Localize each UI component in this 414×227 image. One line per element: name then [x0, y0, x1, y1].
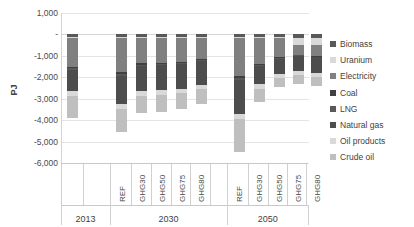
legend-label: LNG	[340, 104, 357, 114]
legend-item-natural-gas[interactable]: Natural gas	[330, 117, 414, 133]
bar-segment-natural-gas	[116, 76, 127, 105]
x-axis-sublabel-ghg30: GHG30	[255, 175, 265, 202]
bar-segment-natural-gas	[254, 66, 265, 84]
legend-swatch-uranium	[330, 57, 336, 63]
bar-segment-crude-oil	[234, 119, 245, 151]
axis-separator	[61, 164, 62, 205]
bar-segment-natural-gas	[196, 61, 207, 85]
bar-segment-natural-gas	[274, 59, 285, 74]
bar-segment-crude-oil	[136, 96, 147, 114]
bar-segment-crude-oil	[156, 95, 167, 112]
x-axis-group-rule	[110, 205, 228, 206]
legend-item-coal[interactable]: Coal	[330, 85, 414, 101]
x-axis-sublabel-ghg50: GHG50	[275, 175, 285, 202]
x-axis-group-rule	[227, 205, 308, 206]
bar-2050-ghg50[interactable]	[274, 34, 285, 87]
bar-segment-electricity	[311, 45, 322, 56]
axis-separator	[83, 164, 84, 205]
x-axis-sublabel-ref: REF	[118, 186, 128, 202]
legend-swatch-biomass	[330, 41, 336, 47]
legend-label: Electricity	[340, 71, 376, 81]
axis-separator	[131, 164, 132, 205]
axis-separator	[151, 164, 152, 205]
stacked-bar-chart: PJ 1,000--1,000-2,000-3,000-4,000-5,000-…	[0, 0, 414, 227]
bar-segment-crude-oil	[196, 89, 207, 104]
bar-segment-natural-gas	[156, 65, 167, 89]
legend-swatch-natural-gas	[330, 122, 336, 128]
legend-label: Crude oil	[340, 152, 374, 162]
y-axis-tick-label: -3,000	[12, 94, 58, 104]
axis-separator	[287, 164, 288, 205]
bar-segment-electricity	[176, 38, 187, 62]
legend-swatch-electricity	[330, 73, 336, 79]
bar-2050-ghg30[interactable]	[254, 34, 265, 102]
x-axis-sublabel-ghg80: GHG80	[313, 175, 323, 202]
y-axis-tick-label: -2,000	[12, 72, 58, 82]
y-axis-tick-label: -1,000	[12, 51, 58, 61]
legend-item-electricity[interactable]: Electricity	[330, 68, 414, 84]
gridline	[62, 120, 309, 121]
bar-2030-ghg50[interactable]	[156, 34, 167, 112]
x-axis-sublabel-ghg75: GHG75	[178, 175, 188, 202]
x-axis-sublabel-ghg80: GHG80	[197, 175, 207, 202]
y-axis-tick-label: -4,000	[12, 115, 58, 125]
bar-2013[interactable]	[67, 34, 78, 118]
bar-segment-uranium	[293, 38, 304, 45]
bar-segment-electricity	[156, 38, 167, 63]
axis-group-separator	[227, 205, 228, 225]
bar-2050-ghg80[interactable]	[311, 34, 322, 86]
legend-label: Natural gas	[340, 120, 383, 130]
bar-segment-natural-gas	[311, 57, 322, 73]
legend-label: Coal	[340, 88, 357, 98]
bar-2030-ghg80[interactable]	[196, 34, 207, 104]
bar-segment-crude-oil	[293, 75, 304, 84]
legend-label: Biomass	[340, 39, 373, 49]
bar-segment-electricity	[234, 38, 245, 76]
plot-area	[61, 13, 309, 163]
y-axis-tick-label: 1,000	[12, 8, 58, 18]
bar-2050-ref[interactable]	[234, 34, 245, 151]
legend-item-lng[interactable]: LNG	[330, 101, 414, 117]
gridline	[62, 13, 309, 14]
legend-label: Oil products	[340, 136, 385, 146]
bar-segment-electricity	[274, 38, 285, 57]
bar-2050-ghg75[interactable]	[293, 34, 304, 83]
bar-2030-ref[interactable]	[116, 34, 127, 131]
x-axis-group-label-2050: 2050	[227, 214, 308, 225]
legend-swatch-lng	[330, 106, 336, 112]
legend-item-oil-products[interactable]: Oil products	[330, 133, 414, 149]
axis-group-separator	[308, 205, 309, 225]
legend-item-biomass[interactable]: Biomass	[330, 36, 414, 52]
bar-2030-ghg75[interactable]	[176, 34, 187, 109]
chart-legend: BiomassUraniumElectricityCoalLNGNatural …	[330, 36, 414, 176]
axis-separator	[248, 164, 249, 205]
bar-segment-crude-oil	[254, 89, 265, 102]
legend-item-uranium[interactable]: Uranium	[330, 52, 414, 68]
legend-item-crude-oil[interactable]: Crude oil	[330, 149, 414, 165]
y-axis-tick-label: -5,000	[12, 137, 58, 147]
x-axis-sublabel-ref: REF	[235, 186, 245, 202]
bar-segment-uranium	[311, 38, 322, 45]
bar-2030-ghg30[interactable]	[136, 34, 147, 113]
x-axis-sublabel-ghg30: GHG30	[138, 175, 148, 202]
axis-separator	[306, 164, 307, 205]
y-axis-tick-label: -6,000	[12, 158, 58, 168]
bar-segment-electricity	[67, 38, 78, 67]
gridline	[62, 142, 309, 143]
bar-segment-crude-oil	[116, 109, 127, 131]
bar-segment-electricity	[136, 38, 147, 63]
x-axis-group-label-2013: 2013	[61, 214, 110, 225]
bar-segment-crude-oil	[176, 93, 187, 109]
legend-swatch-crude-oil	[330, 154, 336, 160]
axis-separator	[171, 164, 172, 205]
bar-segment-electricity	[196, 38, 207, 59]
bar-segment-natural-gas	[136, 66, 147, 91]
axis-separator	[227, 164, 228, 205]
axis-group-separator	[61, 205, 62, 225]
bar-segment-crude-oil	[67, 96, 78, 118]
bar-segment-electricity	[254, 38, 265, 64]
bar-segment-crude-oil	[311, 77, 322, 86]
bar-segment-electricity	[293, 45, 304, 55]
y-axis-tick-labels: 1,000--1,000-2,000-3,000-4,000-5,000-6,0…	[10, 0, 58, 227]
x-axis-sublabel-ghg50: GHG50	[158, 175, 168, 202]
